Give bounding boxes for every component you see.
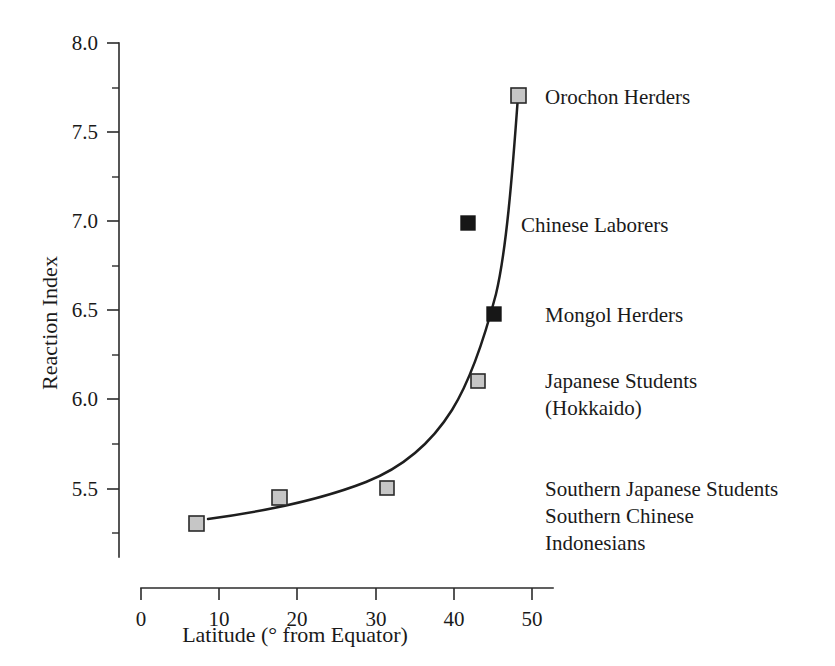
annotation-southern-line3: Indonesians (545, 531, 645, 556)
annotation-orochon-herders: Orochon Herders (545, 85, 690, 110)
data-point-indonesians (189, 516, 204, 531)
data-point-southern-chinese (272, 490, 287, 505)
chart-container: 8.0 7.5 7.0 6.5 6.0 5.5 0 10 20 30 40 50… (0, 0, 835, 666)
chart-canvas (0, 0, 835, 666)
data-point-mongol-herders (487, 307, 501, 321)
annotation-southern-line2: Southern Chinese (545, 504, 694, 529)
y-tick-label-7.0: 7.0 (48, 211, 98, 232)
data-point-orochon-herders (511, 88, 526, 103)
x-axis-title: Latitude (° from Equator) (0, 622, 590, 648)
annotation-southern-line1: Southern Japanese Students (545, 477, 778, 502)
data-point-southern-japanese-students (380, 481, 394, 495)
data-point-chinese-laborers (461, 216, 475, 230)
y-tick-label-7.5: 7.5 (48, 122, 98, 143)
y-tick-label-8.0: 8.0 (48, 33, 98, 54)
y-tick-label-5.5: 5.5 (48, 479, 98, 500)
annotation-mongol-herders: Mongol Herders (545, 303, 683, 328)
fit-curve (208, 96, 518, 519)
y-axis-title: Reaction Index (37, 233, 63, 413)
annotation-japanese-students-line1: Japanese Students (545, 369, 697, 394)
annotation-chinese-laborers: Chinese Laborers (521, 213, 669, 238)
data-point-japanese-students-hokkaido (471, 374, 485, 388)
annotation-japanese-students-line2: (Hokkaido) (545, 396, 642, 421)
